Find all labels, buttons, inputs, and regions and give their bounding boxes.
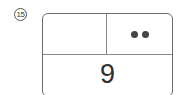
circled-number-label: 15 [14, 8, 27, 21]
bottom-number: 9 [43, 55, 172, 93]
two-dots-icon [107, 14, 172, 54]
top-left-cell [43, 14, 106, 54]
dot-icon [142, 31, 149, 38]
card-box: 9 [42, 13, 173, 95]
dot-icon [131, 31, 138, 38]
